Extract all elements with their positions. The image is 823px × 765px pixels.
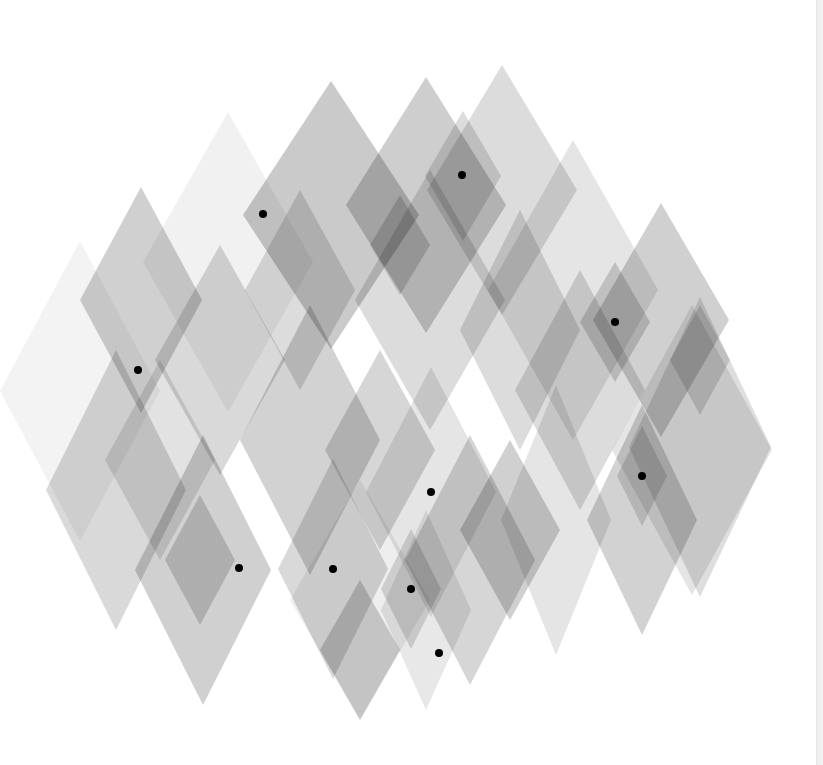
dot-marker (427, 488, 435, 496)
dot-marker (235, 564, 243, 572)
dot-marker (329, 565, 337, 573)
dot-marker (458, 171, 466, 179)
dot-marker (638, 472, 646, 480)
dot-marker (407, 585, 415, 593)
dot-marker (134, 366, 142, 374)
dot-marker (611, 318, 619, 326)
dot-marker (259, 210, 267, 218)
page-edge-strip (816, 0, 823, 765)
dot-marker (435, 649, 443, 657)
